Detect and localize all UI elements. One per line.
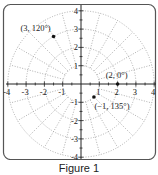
y-tick-label: -1 <box>71 97 78 107</box>
data-point-label: (−1, 135°) <box>94 101 129 111</box>
data-point <box>116 82 120 86</box>
x-tick-label: -4 <box>3 87 11 97</box>
x-tick-label: -1 <box>58 87 65 97</box>
x-tick-label: 4 <box>151 87 156 97</box>
data-point <box>52 35 56 39</box>
figure-caption: Figure 1 <box>0 161 158 175</box>
y-tick-label: 1 <box>74 61 78 71</box>
data-point <box>92 95 96 99</box>
x-tick-label: 2 <box>114 87 118 97</box>
y-tick-label: -4 <box>71 152 79 160</box>
y-tick-label: 3 <box>74 24 78 34</box>
y-tick-label: -2 <box>71 116 78 126</box>
x-tick-label: 1 <box>96 87 100 97</box>
data-point-label: (2, 0°) <box>106 70 128 80</box>
y-tick-label: 2 <box>74 42 78 52</box>
polar-figure: -4-3-2-112344321-1-2-3-4 (3, 120°)(2, 0°… <box>0 0 158 175</box>
x-tick-label: -3 <box>22 87 29 97</box>
polar-plot: -4-3-2-112344321-1-2-3-4 (3, 120°)(2, 0°… <box>0 0 158 160</box>
y-tick-label: -3 <box>71 134 78 144</box>
x-tick-label: -2 <box>40 87 47 97</box>
data-point-label: (3, 120°) <box>20 23 50 33</box>
x-tick-label: 3 <box>133 87 137 97</box>
